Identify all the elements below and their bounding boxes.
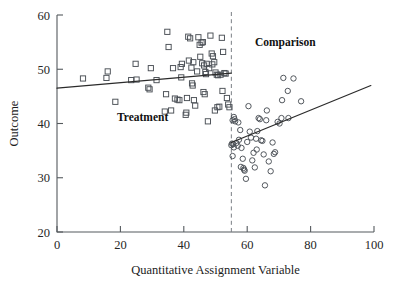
y-tick-label: 40	[38, 117, 51, 131]
data-point-circle	[254, 147, 259, 152]
data-point-circle	[270, 140, 275, 145]
data-point-square	[170, 66, 175, 71]
scatter-series-treatment	[80, 29, 232, 124]
y-tick-label: 60	[38, 9, 51, 23]
data-point-square	[104, 75, 109, 80]
data-point-circle	[279, 97, 284, 102]
data-point-circle	[272, 150, 277, 155]
data-point-square	[208, 33, 213, 38]
data-point-square	[80, 76, 85, 81]
data-point-circle	[298, 99, 303, 104]
data-point-circle	[257, 116, 262, 121]
data-point-square	[188, 36, 193, 41]
data-point-square	[148, 66, 153, 71]
data-point-circle	[247, 129, 252, 134]
data-point-circle	[264, 118, 269, 123]
x-axis-title: Quantitative Assignment Variable	[131, 263, 300, 277]
comparison-fit	[231, 86, 370, 143]
data-point-square	[221, 49, 226, 54]
axis-titles: Quantitative Assignment VariableOutcome	[7, 100, 300, 277]
data-point-square	[186, 34, 191, 39]
data-point-circle	[266, 159, 271, 164]
data-point-square	[189, 65, 194, 70]
data-point-square	[166, 44, 171, 49]
data-point-square	[198, 54, 203, 59]
data-point-circle	[281, 75, 286, 80]
data-point-circle	[251, 150, 256, 155]
data-point-circle	[253, 136, 258, 141]
plot-canvas: 2030405060020406080100 TreatmentComparis…	[0, 0, 400, 281]
data-point-square	[105, 69, 110, 74]
data-point-circle	[291, 76, 296, 81]
x-tick-label: 0	[54, 238, 60, 252]
data-point-circle	[245, 139, 250, 144]
data-point-square	[195, 69, 200, 74]
data-point-circle	[246, 103, 251, 108]
comparison-label: Comparison	[255, 36, 316, 49]
data-point-circle	[261, 152, 266, 157]
data-point-square	[205, 119, 210, 124]
data-point-circle	[279, 115, 284, 120]
data-point-square	[165, 29, 170, 34]
axis-frame	[57, 15, 374, 232]
data-point-circle	[236, 120, 241, 125]
data-point-square	[219, 35, 224, 40]
axes: 2030405060020406080100	[38, 9, 384, 253]
data-point-square	[133, 61, 138, 66]
data-point-square	[163, 92, 168, 97]
rd-scatter-chart: 2030405060020406080100 TreatmentComparis…	[0, 0, 400, 281]
data-point-square	[147, 87, 152, 92]
data-point-square	[178, 64, 183, 69]
x-tick-label: 80	[304, 238, 317, 252]
data-point-circle	[238, 127, 243, 132]
data-point-square	[113, 99, 118, 104]
data-point-circle	[243, 176, 248, 181]
treatment-label: Treatment	[117, 111, 168, 123]
data-point-square	[146, 85, 151, 90]
data-point-square	[224, 95, 229, 100]
x-tick-label: 100	[365, 238, 384, 252]
x-tick-label: 20	[114, 238, 127, 252]
data-point-circle	[250, 158, 255, 163]
y-axis-title: Outcome	[7, 100, 21, 146]
data-point-square	[169, 108, 174, 113]
scatter-series-comparison	[229, 75, 304, 188]
data-point-circle	[268, 169, 273, 174]
data-point-circle	[240, 156, 245, 161]
data-point-square	[193, 103, 198, 108]
y-tick-label: 50	[38, 63, 51, 77]
y-tick-label: 20	[38, 226, 51, 240]
data-point-circle	[262, 183, 267, 188]
data-point-square	[220, 88, 225, 93]
data-point-circle	[252, 165, 257, 170]
data-point-circle	[264, 108, 269, 113]
data-point-square	[191, 98, 196, 103]
x-tick-label: 40	[178, 238, 191, 252]
data-point-square	[179, 61, 184, 66]
y-tick-label: 30	[38, 171, 51, 185]
x-tick-label: 60	[241, 238, 254, 252]
data-point-circle	[230, 153, 235, 158]
data-point-square	[184, 95, 189, 100]
data-point-circle	[285, 88, 290, 93]
